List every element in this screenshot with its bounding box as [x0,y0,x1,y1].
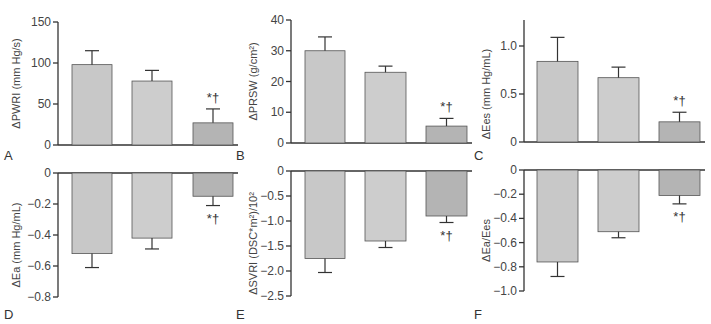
y-axis-label: ΔPRSW (g/cm²) [247,42,259,120]
y-tick-label: −0.2 [493,187,517,201]
bar-group-3 [659,122,700,142]
y-tick-label: −0.6 [493,236,517,250]
bar-group-3 [193,173,233,196]
y-axis-label: ΔPWRI (mm Hg/s) [10,38,22,128]
significance-marker: *† [207,211,219,226]
significance-marker: *† [673,93,685,108]
y-tick-label: 0 [510,135,517,149]
bar-group-3 [426,126,467,143]
bar-group-1 [72,65,112,145]
y-tick-label: 0.5 [500,87,517,101]
y-tick-label: 1.0 [500,39,517,53]
bar-group-2 [365,171,406,241]
panel-e: 0−0.5−1.0−1.5−2.0−2.5ΔSVRI (DSC*m²)/10²*… [236,164,472,322]
y-tick-label: −1.0 [493,284,517,298]
y-tick-label: 30 [271,44,285,58]
panel-letter: C [474,148,483,163]
y-tick-label: 50 [38,97,52,111]
y-tick-label: −1.0 [260,214,284,228]
bar-group-3 [193,123,233,145]
y-tick-label: 0 [510,163,517,177]
panel-d: 0−0.2−0.4−0.6−0.8ΔEa (mm Hg/mL)*†D [4,166,238,322]
y-tick-label: 0 [44,166,51,180]
bar-group-2 [132,173,172,238]
y-tick-label: −2.0 [260,264,284,278]
panel-a: 050100150ΔPWRI (mm Hg/s)*†A [4,15,238,163]
y-tick-label: −0.8 [27,290,51,304]
panel-f: 0−0.2−0.4−0.6−0.8−1.0ΔEa/Ees*†F [474,163,705,322]
bar-group-2 [598,78,639,142]
y-tick-label: 10 [271,105,285,119]
figure-canvas: 050100150ΔPWRI (mm Hg/s)*†A010203040ΔPRS… [0,0,711,324]
y-tick-label: −0.8 [493,260,517,274]
y-tick-label: −0.6 [27,259,51,273]
bar-group-3 [426,171,467,216]
y-tick-label: −0.5 [260,189,284,203]
bar-group-2 [598,170,639,232]
y-axis-label: ΔSVRI (DSC*m²)/10² [247,192,259,295]
panel-c: 00.51.0ΔEes (mm Hg/mL)*†C [474,20,705,163]
bar-group-1 [305,171,345,259]
y-tick-label: −0.2 [27,197,51,211]
y-tick-label: −0.4 [27,228,51,242]
bar-group-2 [365,72,406,143]
bar-group-1 [537,170,578,262]
significance-marker: *† [673,209,685,224]
panel-letter: D [4,307,13,322]
y-tick-label: 150 [31,15,51,29]
y-axis-label: ΔEa (mm Hg/mL) [10,203,22,288]
y-tick-label: −1.5 [260,239,284,253]
bar-group-3 [659,170,700,195]
y-tick-label: 40 [271,13,285,27]
y-axis-label: ΔEes (mm Hg/mL) [480,49,492,139]
y-tick-label: 100 [31,56,51,70]
y-axis-label: ΔEa/Ees [480,219,492,262]
panel-letter: A [4,148,13,163]
y-tick-label: −0.4 [493,211,517,225]
panel-letter: E [236,307,245,322]
bar-group-1 [537,61,578,142]
bar-group-2 [132,81,172,145]
significance-marker: *† [440,99,452,114]
bar-group-1 [305,51,345,143]
bar-group-1 [72,173,112,254]
panel-b: 010203040ΔPRSW (g/cm²)*†B [236,13,472,163]
y-tick-label: 20 [271,75,285,89]
y-tick-label: 0 [277,136,284,150]
significance-marker: *† [207,90,219,105]
panel-letter: F [474,307,482,322]
significance-marker: *† [440,228,452,243]
panel-letter: B [236,148,245,163]
y-tick-label: −2.5 [260,289,284,303]
y-tick-label: 0 [44,138,51,152]
y-tick-label: 0 [277,164,284,178]
